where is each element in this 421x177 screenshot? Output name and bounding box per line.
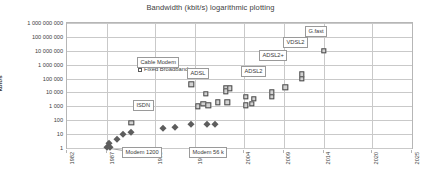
annotation-callout: G.fast bbox=[305, 26, 327, 37]
x-axis-tick bbox=[323, 150, 324, 153]
data-point-broadband bbox=[215, 99, 220, 104]
gridline-horizontal bbox=[67, 23, 412, 24]
x-axis-tick-label: 1982 bbox=[69, 152, 75, 164]
gridline-horizontal bbox=[67, 79, 412, 80]
x-axis-tick bbox=[66, 150, 67, 153]
data-point-broadband bbox=[189, 82, 194, 87]
data-point-broadband bbox=[227, 86, 232, 91]
x-axis-tick bbox=[283, 150, 284, 153]
data-point-broadband bbox=[203, 91, 208, 96]
annotation-callout: ADSL2+ bbox=[259, 50, 287, 61]
annotation-callout: ADSL bbox=[187, 68, 209, 79]
gridline-horizontal bbox=[67, 134, 412, 135]
annotation-callout: Modem 56 k bbox=[189, 147, 227, 158]
gridline-horizontal bbox=[67, 51, 412, 52]
gridline-vertical bbox=[324, 23, 325, 148]
y-axis-tick-label: 1 000 000 bbox=[38, 62, 63, 68]
data-point-broadband bbox=[251, 96, 256, 101]
data-point-broadband bbox=[269, 94, 274, 99]
data-point-broadband bbox=[249, 101, 254, 106]
y-axis-tick-label: 1 000 bbox=[49, 103, 63, 109]
data-point-broadband bbox=[243, 103, 248, 108]
x-axis-tick bbox=[243, 150, 244, 153]
annotation-callout: Modem 1200 bbox=[122, 147, 162, 158]
gridline-vertical bbox=[107, 23, 108, 148]
plot-area: Modem Fixed Broadband bbox=[66, 22, 413, 149]
gridline-horizontal bbox=[67, 148, 412, 149]
x-axis-tick-label: 2020 bbox=[373, 152, 379, 164]
data-point-broadband bbox=[321, 48, 326, 53]
y-axis-tick-label: 100 000 000 bbox=[32, 34, 63, 40]
x-axis-tick-label: 1987 bbox=[109, 152, 115, 164]
x-axis-tick bbox=[371, 150, 372, 153]
y-axis-tick-label: 10 000 000 bbox=[35, 48, 63, 54]
square-marker-icon bbox=[138, 68, 142, 72]
gridline-horizontal bbox=[67, 65, 412, 66]
annotation-callout: VDSL2 bbox=[283, 37, 308, 48]
y-axis-tick-label: 100 bbox=[54, 117, 63, 123]
gridline-vertical bbox=[372, 23, 373, 148]
data-point-broadband bbox=[283, 84, 288, 89]
gridline-vertical bbox=[195, 23, 196, 148]
annotation-callout: ISDN bbox=[133, 100, 154, 111]
x-axis-tick-label: 2009 bbox=[285, 152, 291, 164]
x-axis-tick bbox=[411, 150, 412, 153]
data-point-modem bbox=[172, 124, 178, 130]
data-point-broadband bbox=[243, 94, 248, 99]
data-point-modem bbox=[204, 120, 210, 126]
data-point-modem bbox=[212, 120, 218, 126]
data-point-modem bbox=[113, 135, 119, 141]
gridline-horizontal bbox=[67, 106, 412, 107]
annotation-callout: ADSL2 bbox=[241, 66, 266, 77]
annotation-callout: Cable Modem bbox=[137, 57, 179, 68]
gridline-vertical bbox=[244, 23, 245, 148]
chart-container: Bandwidth (kbit/s) logarithmic plotting … bbox=[0, 0, 421, 177]
x-axis-tick-label: 2025 bbox=[414, 152, 420, 164]
data-point-broadband bbox=[206, 103, 211, 108]
x-axis-tick-label: 2004 bbox=[245, 152, 251, 164]
gridline-horizontal bbox=[67, 37, 412, 38]
y-axis-labels: 1 000 000 000100 000 00010 000 0001 000 … bbox=[0, 22, 63, 149]
data-point-modem bbox=[120, 131, 126, 137]
y-axis-tick-label: 1 000 000 000 bbox=[27, 20, 63, 26]
y-axis-tick-label: 10 000 bbox=[46, 89, 63, 95]
y-axis-tick-label: 100 000 bbox=[43, 76, 63, 82]
x-axis-tick-label: 2014 bbox=[325, 152, 331, 164]
y-axis-tick-label: 1 bbox=[60, 145, 63, 151]
data-point-broadband bbox=[225, 99, 230, 104]
x-axis-tick bbox=[106, 150, 107, 153]
data-point-broadband bbox=[299, 76, 304, 81]
gridline-horizontal bbox=[67, 92, 412, 93]
gridline-horizontal bbox=[67, 120, 412, 121]
data-point-broadband bbox=[195, 104, 200, 109]
x-axis-labels: 198219871993199820042009201420202025 bbox=[66, 150, 413, 176]
gridline-vertical bbox=[155, 23, 156, 148]
data-point-broadband bbox=[128, 120, 133, 125]
chart-title: Bandwidth (kbit/s) logarithmic plotting bbox=[0, 3, 421, 12]
data-point-modem bbox=[160, 124, 166, 130]
data-point-modem bbox=[188, 120, 194, 126]
y-axis-tick-label: 10 bbox=[57, 131, 63, 137]
